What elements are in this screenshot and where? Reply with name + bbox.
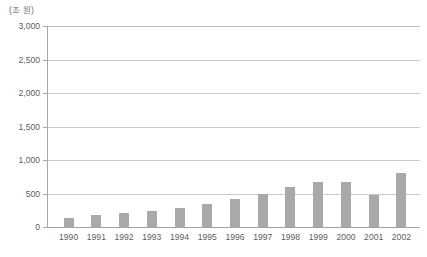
- bar: [369, 195, 379, 227]
- x-axis-tick-label: 1995: [198, 232, 217, 242]
- x-axis-tick-label: 1998: [281, 232, 300, 242]
- x-axis-tick-label: 2000: [336, 232, 355, 242]
- y-axis-tick-label: 1,000: [2, 155, 40, 165]
- bar: [230, 199, 240, 227]
- bar: [313, 182, 323, 227]
- y-axis-tick: [43, 227, 47, 228]
- x-axis-labels: 1990199119921993199419951996199719981999…: [47, 232, 420, 248]
- bar-chart: (조 원) 05001,0001,5002,0002,5003,000 1990…: [0, 0, 427, 257]
- x-axis-tick-label: 1997: [253, 232, 272, 242]
- y-axis-tick: [43, 60, 47, 61]
- y-axis-tick-label: 2,000: [2, 88, 40, 98]
- x-axis-tick-label: 1996: [225, 232, 244, 242]
- bars: [47, 26, 420, 227]
- bar: [396, 173, 406, 227]
- y-axis-tick: [43, 194, 47, 195]
- x-axis-tick-label: 1993: [142, 232, 161, 242]
- bar: [147, 211, 157, 227]
- y-axis-tick-label: 500: [2, 189, 40, 199]
- x-axis-tick-label: 1990: [59, 232, 78, 242]
- gridline: [47, 227, 420, 228]
- y-axis-tick-label: 2,500: [2, 55, 40, 65]
- y-axis-tick: [43, 160, 47, 161]
- x-axis-tick-label: 1992: [115, 232, 134, 242]
- y-axis-tick: [43, 93, 47, 94]
- y-axis-tick-label: 1,500: [2, 122, 40, 132]
- y-axis-tick: [43, 127, 47, 128]
- bar: [285, 187, 295, 227]
- x-axis-tick-label: 2001: [364, 232, 383, 242]
- x-axis-tick-label: 2002: [392, 232, 411, 242]
- bar: [91, 215, 101, 227]
- bar: [202, 204, 212, 227]
- y-axis-labels: 05001,0001,5002,0002,5003,000: [0, 26, 40, 227]
- x-axis-tick-label: 1999: [309, 232, 328, 242]
- y-axis-tick: [43, 26, 47, 27]
- unit-label: (조 원): [9, 3, 34, 15]
- x-axis-tick-label: 1994: [170, 232, 189, 242]
- bar: [119, 213, 129, 227]
- y-axis-tick-label: 0: [2, 222, 40, 232]
- bar: [64, 218, 74, 227]
- y-axis-tick-label: 3,000: [2, 21, 40, 31]
- bar: [175, 208, 185, 227]
- bar: [258, 194, 268, 227]
- bar: [341, 182, 351, 227]
- x-axis-tick-label: 1991: [87, 232, 106, 242]
